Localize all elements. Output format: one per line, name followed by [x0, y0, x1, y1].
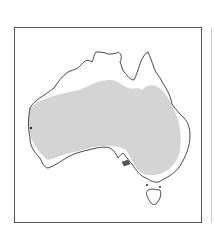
- shaded-range-region: [29, 80, 181, 175]
- coastline-tasmania: [147, 189, 161, 204]
- small-island: [146, 184, 148, 186]
- small-island: [30, 127, 32, 129]
- small-island: [159, 186, 161, 188]
- australia-map: [0, 0, 214, 229]
